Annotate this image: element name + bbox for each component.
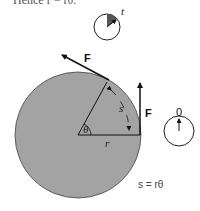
angle-label: θ bbox=[83, 123, 89, 135]
clock-zero-icon bbox=[164, 116, 194, 146]
radius-label: r bbox=[105, 137, 110, 149]
clock-zero-label: 0 bbox=[176, 106, 182, 118]
arc-length-equation: s = rθ bbox=[138, 179, 164, 190]
arc-length-label: s bbox=[119, 102, 123, 114]
tangent-force-label: F bbox=[84, 52, 91, 64]
rotation-diagram: t F F s θ r 0 s = rθ bbox=[0, 0, 200, 211]
clock-t-icon bbox=[94, 14, 120, 40]
vertical-force-label: F bbox=[145, 107, 152, 119]
clock-t-label: t bbox=[121, 5, 125, 17]
